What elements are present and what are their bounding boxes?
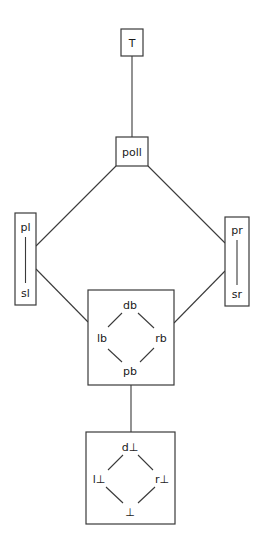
node-b-group: db lb rb pb bbox=[88, 290, 174, 385]
bottom-group-top-label: d⊥ bbox=[122, 441, 139, 454]
node-bottom-group: d⊥ l⊥ r⊥ ⊥ bbox=[86, 432, 175, 524]
bottom-group-right-label: r⊥ bbox=[155, 473, 169, 486]
lattice-diagram: T poll pl sl pr sr db lb rb pb d⊥ l⊥ r⊥ … bbox=[0, 0, 265, 552]
edge-poll-right bbox=[148, 166, 225, 243]
bottom-group-bottom-label: ⊥ bbox=[125, 506, 135, 519]
b-group-left-label: lb bbox=[97, 332, 107, 345]
node-poll: poll bbox=[116, 137, 148, 166]
right-group-upper-label: pr bbox=[231, 224, 243, 237]
node-left-group: pl sl bbox=[15, 213, 36, 305]
right-group-lower-label: sr bbox=[232, 288, 243, 301]
node-right-group: pr sr bbox=[225, 217, 249, 306]
edge-right-bgroup bbox=[174, 271, 225, 323]
bottom-group-left-label: l⊥ bbox=[93, 473, 106, 486]
node-top-label: T bbox=[128, 37, 136, 50]
left-group-upper-label: pl bbox=[20, 221, 30, 234]
b-group-right-label: rb bbox=[155, 332, 167, 345]
node-poll-label: poll bbox=[122, 146, 142, 159]
b-group-bottom-label: pb bbox=[123, 365, 137, 378]
left-group-lower-label: sl bbox=[21, 287, 30, 300]
node-top: T bbox=[121, 29, 143, 56]
edge-poll-left bbox=[36, 166, 116, 246]
edge-left-bgroup bbox=[36, 269, 88, 322]
b-group-top-label: db bbox=[123, 299, 137, 312]
